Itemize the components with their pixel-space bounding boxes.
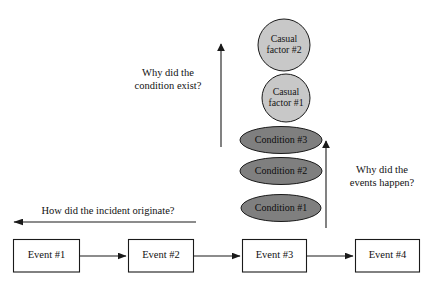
annotation-why-condition-exist: Why did the condition exist?	[120, 66, 216, 92]
event-label-1: Event #1	[13, 249, 80, 261]
event-box-2[interactable]	[129, 240, 194, 273]
event-box-4[interactable]	[356, 240, 420, 273]
condition-label-2: Condition #2	[240, 165, 322, 176]
condition-label-1: Condition #1	[241, 202, 321, 213]
event-box-3[interactable]	[243, 240, 307, 273]
causal-factor-diagram: Event #1 Event #2 Event #3 Event #4 Cond…	[0, 0, 432, 285]
event-label-3: Event #3	[242, 249, 307, 261]
condition-label-3: Condition #3	[240, 134, 322, 145]
casual-factor-circle-2[interactable]	[258, 19, 310, 71]
diagram-vector-layer	[0, 0, 432, 285]
casual-factor-circle-1[interactable]	[262, 74, 310, 122]
condition-ellipse-3[interactable]	[240, 127, 322, 154]
annotation-why-events-happen: Why did the events happen?	[334, 163, 430, 189]
condition-ellipse-2[interactable]	[240, 158, 322, 185]
casual-factor-label-2: Casual factor #2	[260, 34, 308, 56]
event-box-1[interactable]	[14, 240, 80, 273]
condition-ellipse-1[interactable]	[241, 195, 321, 222]
event-label-2: Event #2	[128, 249, 194, 261]
annotation-how-incident-originate: How did the incident originate?	[20, 204, 196, 217]
casual-factor-label-1: Casual factor #1	[262, 87, 310, 109]
event-label-4: Event #4	[355, 249, 420, 261]
